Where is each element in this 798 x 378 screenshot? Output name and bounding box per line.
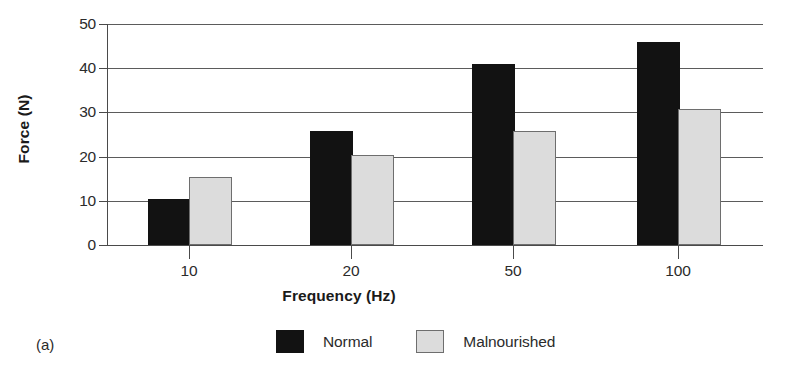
y-tick-label-wrap: 30 [58,104,96,120]
x-tick-mark [678,245,679,259]
x-tick-mark [513,245,514,259]
x-tick-mark [189,245,190,259]
plot-area [107,24,763,245]
x-tick-mark [351,245,352,259]
y-tick-label: 0 [88,237,96,253]
y-tick-label: 20 [79,149,96,165]
y-tick-label: 30 [79,104,96,120]
legend-swatch-normal [276,330,304,353]
bar-normal-20 [310,131,353,245]
y-tick-mark [99,201,107,202]
x-tick-label-20: 20 [321,262,381,280]
bar-malnourished-20 [351,155,394,245]
y-tick-mark [99,245,107,246]
x-axis-title: Frequency (Hz) [0,287,798,305]
legend-item-malnourished: Malnourished [416,330,555,353]
y-tick-label-wrap: 0 [58,237,96,253]
bar-normal-100 [637,42,680,245]
y-tick-label: 10 [79,193,96,209]
legend-swatch-malnourished [416,330,444,353]
x-tick-label-50: 50 [483,262,543,280]
y-axis-title: Force (N) [15,59,33,199]
x-axis-title-text: Frequency (Hz) [282,287,395,304]
x-tick-label-100: 100 [648,262,708,280]
gridline [107,24,763,25]
legend-item-normal: Normal [276,330,372,353]
y-tick-mark [99,157,107,158]
legend-label-normal: Normal [323,333,372,351]
bar-malnourished-100 [678,109,721,245]
figure-letter: (a) [36,336,54,353]
chart-legend: NormalMalnourished [276,330,555,353]
y-axis-line [107,24,108,246]
y-tick-label: 50 [79,16,96,32]
x-axis-line [107,245,763,246]
y-tick-label: 40 [79,60,96,76]
y-tick-label-wrap: 10 [58,193,96,209]
y-tick-label-wrap: 50 [58,16,96,32]
y-tick-label-wrap: 40 [58,60,96,76]
bar-malnourished-10 [189,177,232,245]
bar-chart-figure: Force (N) 01020304050 102050100 Frequenc… [0,0,798,378]
y-tick-mark [99,112,107,113]
y-tick-mark [99,24,107,25]
bar-normal-50 [472,64,515,245]
bar-normal-10 [148,199,191,245]
y-tick-mark [99,68,107,69]
y-tick-label-wrap: 20 [58,149,96,165]
x-tick-label-10: 10 [159,262,219,280]
bar-malnourished-50 [513,131,556,245]
legend-label-malnourished: Malnourished [463,333,555,351]
